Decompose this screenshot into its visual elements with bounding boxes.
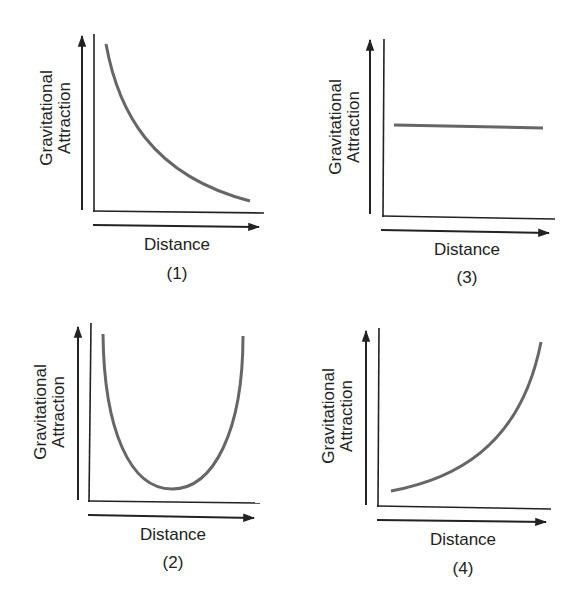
panel-4: Gravitational Attraction Distance (4) [319, 328, 551, 578]
y-axis-label: Gravitational [326, 79, 345, 174]
y-axis-label: Gravitational [37, 70, 56, 165]
panel-caption: (4) [453, 559, 474, 578]
y-axis [378, 328, 379, 507]
panel-2: Gravitational Attraction Distance (2) [31, 323, 260, 572]
panel-1: Gravitational Attraction Distance (1) [37, 34, 264, 283]
x-axis-label: Distance [140, 525, 206, 544]
y-axis-label: Gravitational [31, 364, 50, 459]
y-axis-label: Attraction [55, 82, 74, 154]
y-axis [89, 323, 91, 502]
x-axis [377, 506, 551, 509]
y-axis-label: Gravitational [319, 368, 338, 463]
figure-canvas: Gravitational Attraction Distance (1) Gr… [0, 0, 579, 614]
x-direction-arrow [88, 515, 254, 518]
x-direction-arrow [93, 225, 259, 227]
y-axis-label: Attraction [49, 376, 68, 448]
curve-constant [394, 125, 543, 128]
x-axis [88, 501, 260, 503]
curve-increasing [391, 342, 541, 491]
x-direction-arrow [377, 520, 546, 522]
x-axis-label: Distance [144, 235, 210, 254]
x-axis-label: Distance [434, 240, 500, 259]
y-axis [383, 39, 384, 217]
curve-u-shape [103, 334, 243, 489]
panel-caption: (2) [163, 553, 184, 572]
panel-caption: (1) [167, 264, 188, 283]
panel-3: Gravitational Attraction Distance (3) [326, 39, 555, 287]
x-direction-arrow [381, 230, 549, 233]
y-axis-label: Attraction [344, 91, 363, 163]
y-axis-label: Attraction [337, 380, 356, 452]
panel-caption: (3) [457, 268, 478, 287]
x-axis [93, 211, 264, 213]
x-axis-label: Distance [430, 530, 496, 549]
x-axis [382, 216, 555, 219]
curve-decreasing [106, 44, 250, 201]
